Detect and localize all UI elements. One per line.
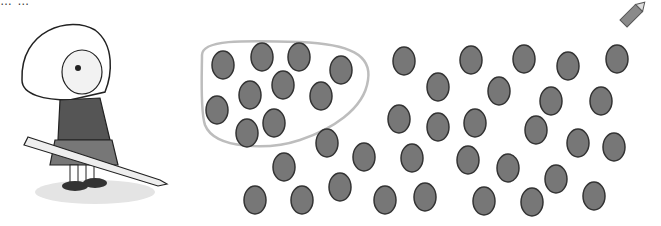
dot <box>521 188 543 216</box>
dot <box>329 173 351 201</box>
dot <box>540 87 562 115</box>
girl-illustration <box>22 24 167 204</box>
dot <box>606 45 628 73</box>
dot <box>473 187 495 215</box>
dot <box>545 165 567 193</box>
circled-dot <box>288 43 310 71</box>
dot <box>567 129 589 157</box>
dot <box>603 133 625 161</box>
circled-dot <box>239 81 261 109</box>
dot <box>590 87 612 115</box>
dot <box>457 146 479 174</box>
circled-dot <box>236 119 258 147</box>
dot <box>583 182 605 210</box>
dot <box>273 153 295 181</box>
dot <box>388 105 410 133</box>
dot <box>525 116 547 144</box>
dot <box>244 186 266 214</box>
dot <box>393 47 415 75</box>
dot <box>557 52 579 80</box>
dot <box>488 77 510 105</box>
dot <box>401 144 423 172</box>
pencil-icon <box>620 0 648 27</box>
dot <box>374 186 396 214</box>
dot <box>464 109 486 137</box>
dot <box>497 154 519 182</box>
dot <box>414 183 436 211</box>
circled-dot <box>251 43 273 71</box>
circled-dot <box>263 109 285 137</box>
dot <box>513 45 535 73</box>
dot <box>353 143 375 171</box>
circled-dot <box>272 71 294 99</box>
circled-dot <box>206 96 228 124</box>
dot <box>291 186 313 214</box>
dot <box>427 73 449 101</box>
circled-dot <box>310 82 332 110</box>
circled-dot <box>330 56 352 84</box>
dot <box>316 129 338 157</box>
circled-dot <box>212 51 234 79</box>
dot <box>460 46 482 74</box>
exercise-canvas <box>0 0 661 226</box>
dot <box>427 113 449 141</box>
